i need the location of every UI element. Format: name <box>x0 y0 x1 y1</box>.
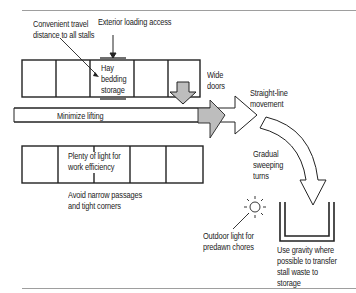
light-label-1: Plenty of light for <box>68 151 121 162</box>
hay-label-1: Hay <box>101 63 114 74</box>
loading-label: Exterior loading access <box>98 17 171 28</box>
gray-arrow-icon <box>198 100 225 138</box>
travel-pointer-line <box>60 38 97 75</box>
gravity-label-4: storage <box>277 278 301 289</box>
travel-pointer-head <box>93 72 99 77</box>
outdoor-label-1: Outdoor light for <box>203 231 254 242</box>
minimize-label: Minimize lifting <box>57 111 103 122</box>
gravity-label-2: possible to transfer <box>277 256 337 267</box>
outdoor-label-2: predawn chores <box>203 242 254 253</box>
manure-pit-icon <box>280 202 334 241</box>
wide-doors-label-2: doors <box>207 81 225 92</box>
gradual-label-2: sweeping <box>253 160 283 171</box>
avoid-label-2: and tight corners <box>68 201 121 212</box>
hay-label-3: storage <box>101 85 125 96</box>
gradual-label-1: Gradual <box>253 149 278 160</box>
travel-label-1: Convenient travel <box>33 19 88 30</box>
gradual-label-3: turns <box>253 171 269 182</box>
straight-label-1: Straight-line <box>250 88 288 99</box>
hay-label-2: bedding <box>101 74 126 85</box>
gravity-label-3: stall waste to <box>277 267 318 278</box>
avoid-label-1: Avoid narrow passages <box>68 190 142 201</box>
travel-label-2: distance to all stalls <box>33 30 94 41</box>
down-arrow-icon <box>170 82 196 104</box>
gravity-label-1: Use gravity where <box>277 245 334 256</box>
wide-doors-label-1: Wide <box>207 70 223 81</box>
sun-pointer-line <box>233 213 249 229</box>
straight-label-2: movement <box>250 99 283 110</box>
light-label-2: work efficiency <box>68 162 114 173</box>
